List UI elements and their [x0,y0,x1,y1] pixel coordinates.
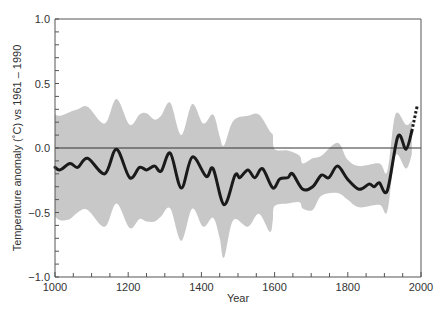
x-axis-ticks: 100012001400160018002000 [43,272,433,293]
x-tick-label: 1600 [262,281,286,293]
y-tick-label: 1.0 [35,13,50,25]
x-tick-label: 1400 [189,281,213,293]
y-axis-ticks: −1.0−0.50.00.51.0 [28,13,59,283]
x-tick-label: 2000 [409,281,433,293]
x-tick-label: 1200 [116,281,140,293]
instrumental-dotted-line [412,105,418,131]
x-axis-title: Year [227,292,250,304]
y-tick-label: 0.5 [35,78,50,90]
temperature-anomaly-chart: 100012001400160018002000 −1.0−0.50.00.51… [0,0,443,313]
x-tick-label: 1800 [336,281,360,293]
y-tick-label: 0.0 [35,142,50,154]
y-tick-label: −1.0 [28,271,50,283]
y-axis-title: Temperature anomaly (˚C) vs 1961 – 1990 [11,45,23,252]
y-tick-label: −0.5 [28,207,50,219]
